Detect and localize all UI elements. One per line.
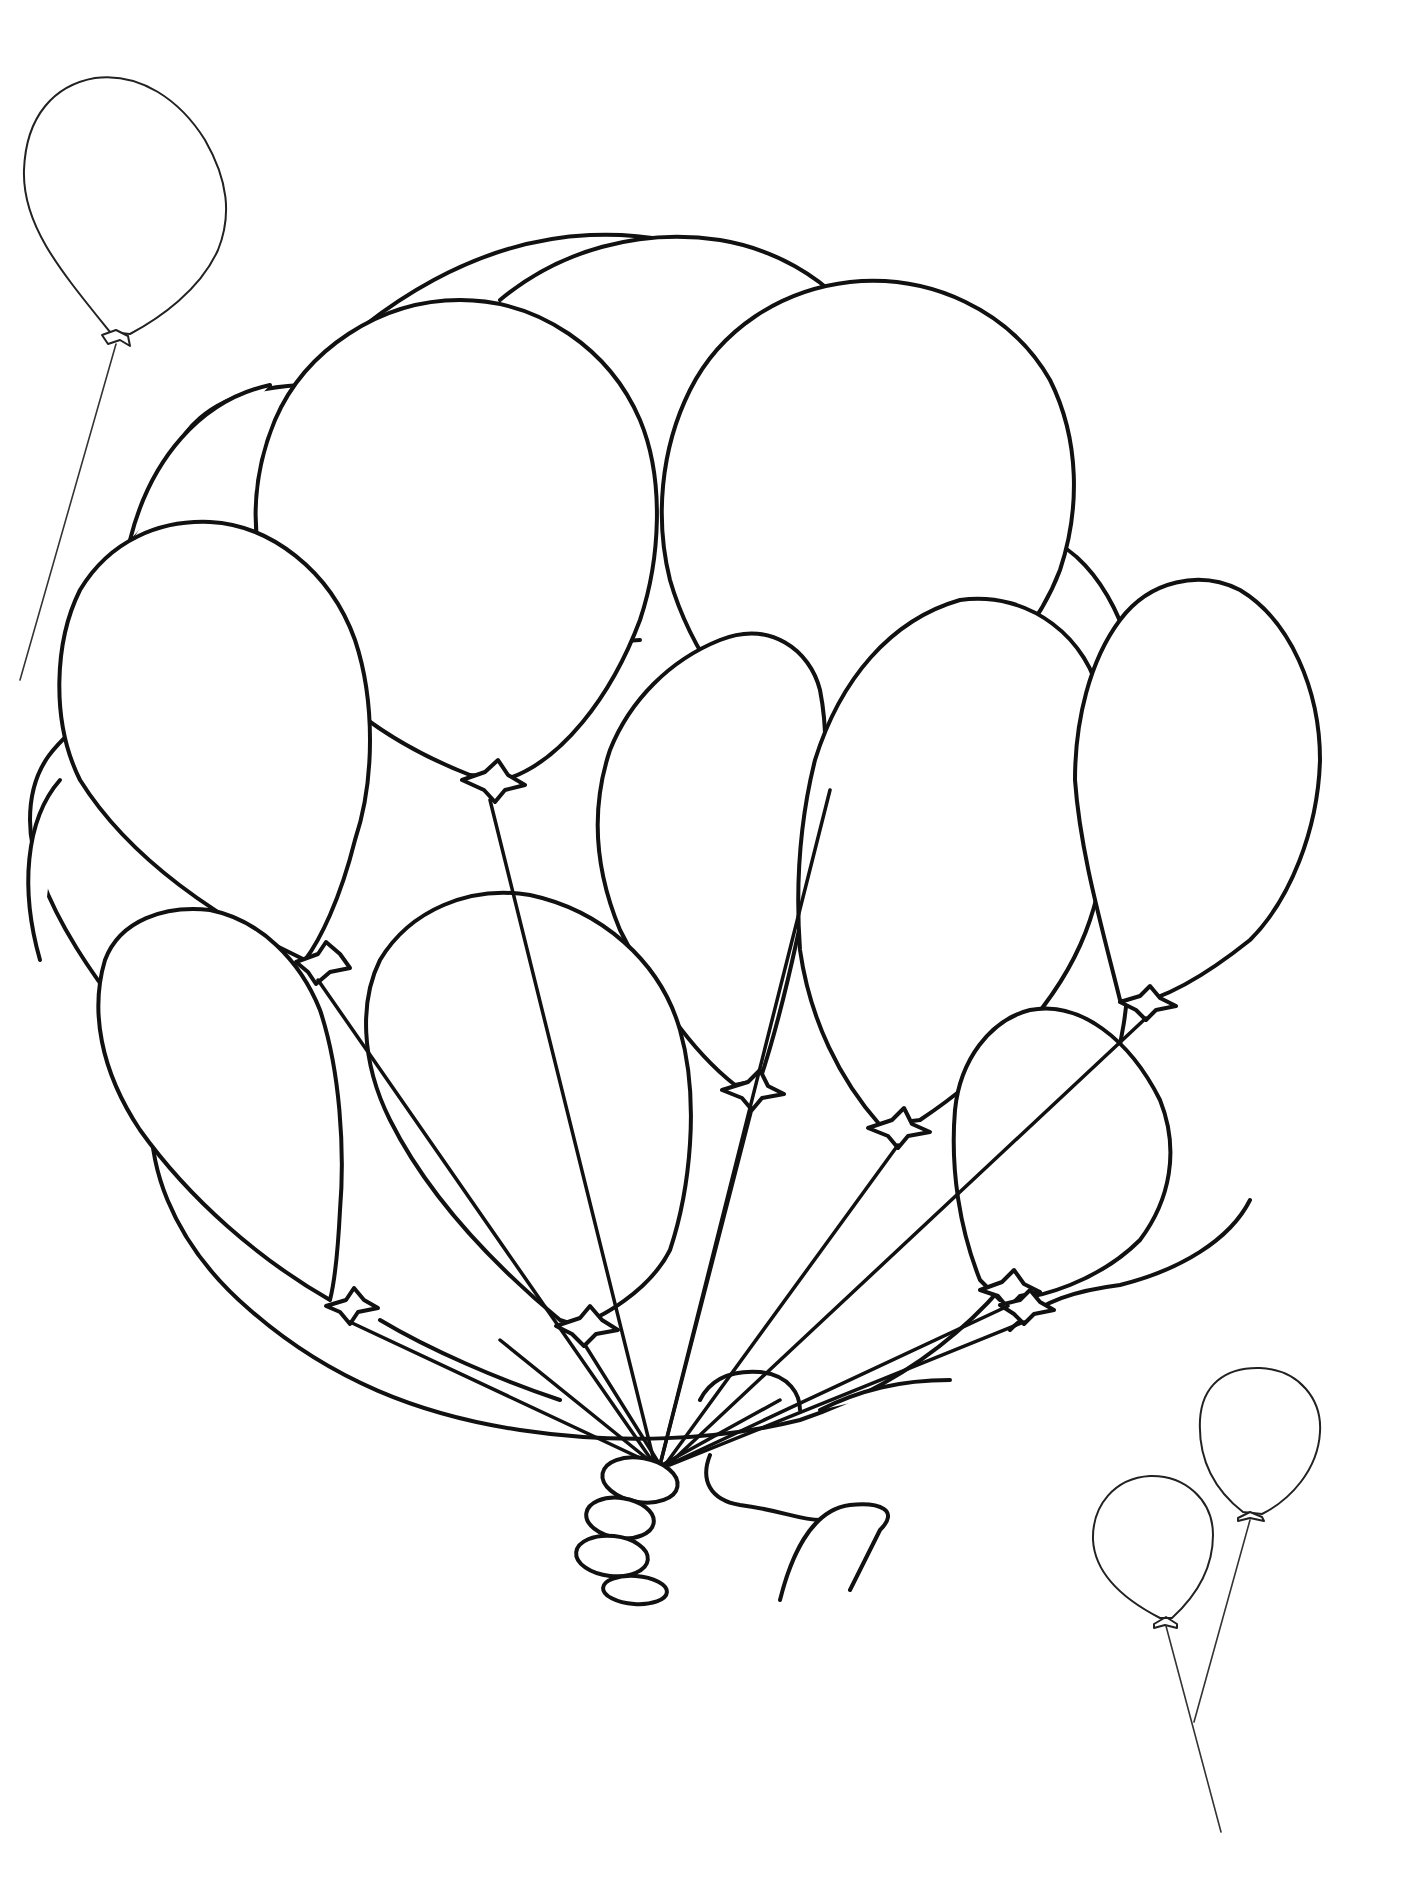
hand (574, 1452, 888, 1606)
balloon-coloring-page (0, 0, 1418, 1883)
balloon-bunch (28, 235, 1320, 1607)
loose-balloon-bottom-right-front (1093, 1476, 1221, 1832)
